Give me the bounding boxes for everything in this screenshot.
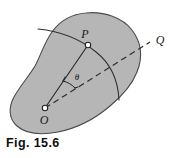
label-angle-theta: θ [75,72,80,82]
point-marker-o [42,105,47,110]
figure-caption: Fig. 15.6 [6,136,60,150]
label-point-q: Q [156,33,165,47]
point-marker-p [85,42,90,47]
figure-container: P O Q θ Fig. 15.6 [0,0,176,158]
rigid-body-rotation-diagram: P O Q θ [0,0,176,158]
label-point-p: P [80,27,89,41]
label-point-o: O [40,113,49,127]
